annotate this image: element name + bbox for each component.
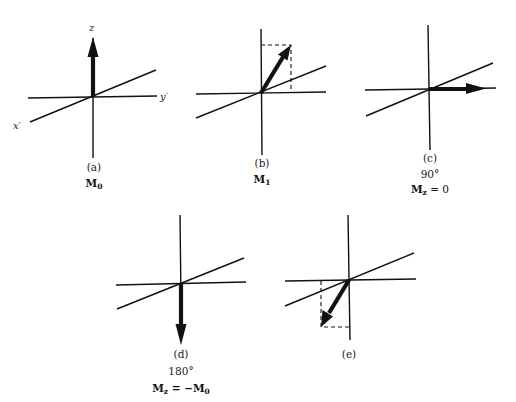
pulse-angle: 180° [168,365,193,377]
panel-a: z x′ y′ (a) M0 [13,22,169,191]
panel-label: (b) [255,157,270,169]
z-axis [348,215,350,340]
panel-c: (c) 90° Mz = 0 [365,25,496,197]
arrowhead-icon [466,83,486,94]
y-prime-axis-label: y′ [159,91,169,102]
panel-e: (e) [285,215,416,360]
panel-b: (b) M1 [196,29,326,187]
panel-label: (a) [87,161,101,173]
magnetization-vector [329,280,349,313]
vector-equation: Mz = 0 [411,183,449,197]
vector-equation: Mz = −M0 [152,382,210,396]
vector-label: M1 [254,173,271,187]
panel-d: (d) 180° Mz = −M0 [116,215,246,396]
panel-label: (d) [174,348,189,360]
x-prime-axis-label: x′ [13,120,22,131]
arrowhead-icon [88,37,99,57]
vector-label: M0 [86,177,103,191]
panel-label: (e) [342,348,356,360]
arrowhead-icon [176,324,187,345]
panel-label: (c) [423,152,437,164]
magnetization-vector-figure: z x′ y′ (a) M0 (b) M1 (c) 90° Mz = 0 [0,0,516,402]
z-axis-label: z [88,22,95,33]
pulse-angle: 90° [421,168,440,180]
